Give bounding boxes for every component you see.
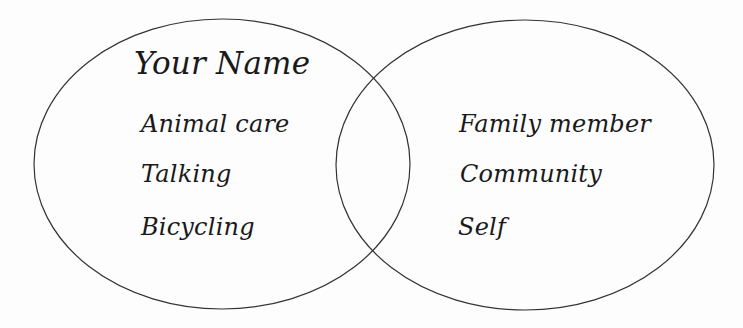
left-set-item-bicycling: Bicycling xyxy=(141,215,255,239)
left-set-item-animal-care: Animal care xyxy=(141,112,289,136)
right-set-item-self: Self xyxy=(458,215,506,239)
left-set-item-talking: Talking xyxy=(141,162,232,186)
right-set-item-family-member: Family member xyxy=(459,112,651,136)
left-set-title: Your Name xyxy=(134,48,310,79)
venn-diagram: Your Name Animal care Talking Bicycling … xyxy=(0,0,743,328)
venn-shapes xyxy=(0,0,743,328)
right-set-item-community: Community xyxy=(460,162,602,186)
